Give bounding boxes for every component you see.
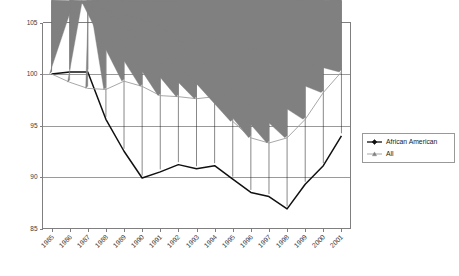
- x-axis-tick-label: 1986: [58, 233, 74, 249]
- x-axis-tick-label: 1998: [275, 233, 291, 249]
- data-point-marker: [68, 0, 83, 82]
- x-axis-tick-label: 1987: [76, 233, 92, 249]
- x-axis-tick-label: 1996: [239, 233, 255, 249]
- x-axis-tick-label: 1997: [257, 233, 273, 249]
- x-axis-tick-label: 1991: [148, 233, 164, 249]
- legend-label: African American: [386, 138, 438, 145]
- y-axis-tick-label: 95: [30, 122, 38, 129]
- x-axis-tick-label: 1990: [130, 233, 146, 249]
- chart-legend: African AmericanAll: [363, 134, 455, 163]
- x-axis-tick-label: 1993: [185, 233, 201, 249]
- line-chart: 105100959085 198519861987198819891990199…: [0, 0, 459, 276]
- y-axis-tick-label: 90: [30, 173, 38, 180]
- x-axis-labels-group: 1985198619871988198919901991199219931994…: [40, 233, 345, 249]
- x-axis-tick-label: 1995: [221, 233, 237, 249]
- x-axis-tick-label: 1999: [293, 233, 309, 249]
- x-axis-tick-label: 2001: [329, 233, 345, 249]
- y-axis-labels-group: 105100959085: [27, 19, 43, 232]
- x-axis-tick-label: 1988: [94, 233, 110, 249]
- y-axis-tick-label: 100: [27, 70, 38, 77]
- x-axis-tick-label: 1985: [40, 233, 56, 249]
- x-axis-tick-label: 2000: [311, 233, 327, 249]
- chart-container: 105100959085 198519861987198819891990199…: [0, 0, 459, 276]
- y-axis-tick-label: 105: [27, 19, 38, 26]
- x-axis-tick-label: 1992: [166, 233, 182, 249]
- legend-label: All: [386, 150, 394, 157]
- x-axis-tick-label: 1989: [112, 233, 128, 249]
- y-axis-tick-label: 85: [30, 225, 38, 232]
- x-axis-tick-label: 1994: [203, 233, 219, 249]
